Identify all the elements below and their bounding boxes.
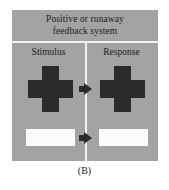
right-arrow-icon-top	[79, 83, 92, 95]
column-heading-response: Response	[85, 46, 158, 58]
cross-vertical-bar	[114, 66, 131, 112]
panel-title: Positive or runaway feedback system	[12, 10, 158, 41]
panel-title-line-2: feedback system	[53, 26, 118, 38]
right-arrow-icon-bottom	[79, 132, 92, 144]
response-cross-icon	[100, 66, 145, 112]
arrow-head	[84, 83, 92, 95]
arrow-head	[84, 132, 92, 144]
figure-caption: (B)	[0, 164, 169, 177]
panel-title-line-1: Positive or runaway	[46, 14, 124, 26]
stimulus-cross-icon	[28, 66, 73, 112]
figure-panel-b: Positive or runaway feedback system Stim…	[0, 0, 169, 190]
cross-vertical-bar	[42, 66, 59, 112]
column-heading-stimulus: Stimulus	[12, 46, 85, 58]
stimulus-white-rectangle	[26, 129, 75, 146]
diagram-panel: Positive or runaway feedback system Stim…	[12, 10, 158, 161]
response-white-rectangle	[99, 129, 148, 146]
